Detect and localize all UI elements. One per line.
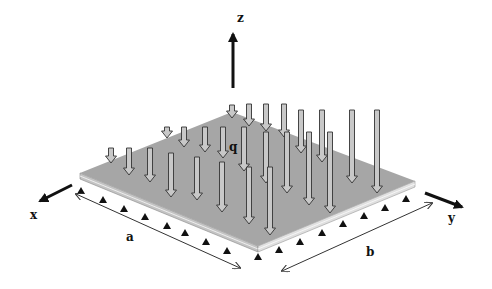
dimension-b-label: b [366,245,374,259]
z-axis-label: z [237,11,244,25]
z-axis: z [233,11,244,88]
load-arrow [296,110,307,153]
load-arrow [162,127,173,138]
y-axis: y [425,193,462,225]
y-axis-label: y [447,211,456,225]
load-q-label: q [229,140,238,154]
plate-diagram: z [0,0,492,289]
x-axis-label: x [30,208,38,222]
dimension-a-label: a [126,230,134,244]
x-axis: x [30,185,72,222]
